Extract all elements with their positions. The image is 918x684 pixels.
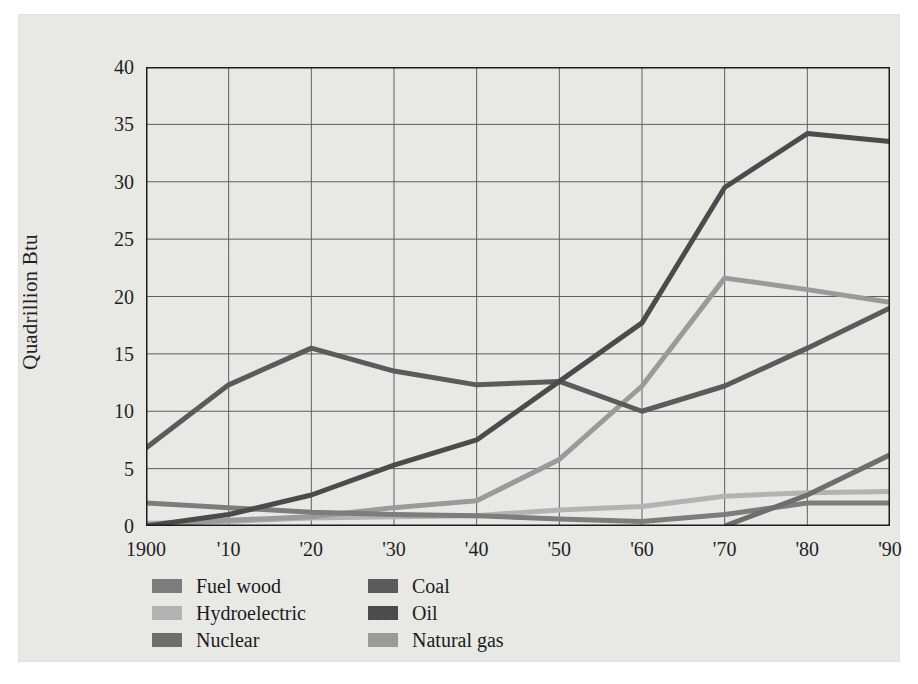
series-line-natural-gas <box>146 278 890 525</box>
y-axis-title: Quadrillion Btu <box>18 182 48 422</box>
legend-column: CoalOilNatural gas <box>368 572 504 653</box>
page-canvas: Quadrillion Btu 0510152025303540 1900'10… <box>0 0 918 684</box>
y-tick-label: 10 <box>92 401 134 421</box>
legend-item-label: Nuclear <box>196 630 259 650</box>
legend-item[interactable]: Natural gas <box>368 626 504 653</box>
legend-item[interactable]: Hydroelectric <box>152 599 306 626</box>
legend-item[interactable]: Fuel wood <box>152 572 306 599</box>
legend-swatch <box>152 579 182 593</box>
x-tick-label: '90 <box>840 538 918 560</box>
legend-swatch <box>368 606 398 620</box>
y-tick-label: 30 <box>92 172 134 192</box>
legend-item-label: Coal <box>412 576 450 596</box>
y-tick-label: 40 <box>92 57 134 77</box>
legend-item[interactable]: Coal <box>368 572 504 599</box>
legend-swatch <box>368 579 398 593</box>
legend-swatch <box>368 633 398 647</box>
y-tick-label: 20 <box>92 287 134 307</box>
legend-item[interactable]: Oil <box>368 599 504 626</box>
plot-area <box>146 67 890 526</box>
gridlines <box>146 67 890 526</box>
y-tick-label: 0 <box>92 516 134 536</box>
data-series-group <box>146 134 890 526</box>
line-chart-svg <box>146 67 890 526</box>
legend-column: Fuel woodHydroelectricNuclear <box>152 572 306 653</box>
y-tick-label: 15 <box>92 344 134 364</box>
legend-swatch <box>152 606 182 620</box>
legend-item[interactable]: Nuclear <box>152 626 306 653</box>
legend-item-label: Fuel wood <box>196 576 281 596</box>
legend-swatch <box>152 633 182 647</box>
series-line-oil <box>146 134 890 526</box>
legend-item-label: Oil <box>412 603 438 623</box>
legend-item-label: Hydroelectric <box>196 603 306 623</box>
legend-item-label: Natural gas <box>412 630 504 650</box>
series-line-coal <box>146 308 890 448</box>
y-tick-label: 35 <box>92 114 134 134</box>
scanned-figure-panel: Quadrillion Btu 0510152025303540 1900'10… <box>18 14 900 662</box>
y-tick-label: 5 <box>92 459 134 479</box>
y-tick-label: 25 <box>92 229 134 249</box>
